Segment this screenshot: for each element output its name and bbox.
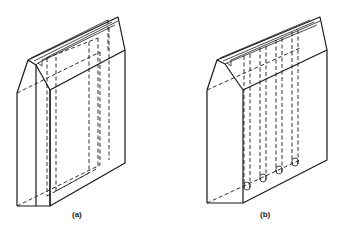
panel-a-drawing: [17, 17, 125, 206]
panel-b-drawing: [207, 17, 327, 203]
channels: [244, 30, 298, 190]
diagram-canvas: [0, 0, 344, 231]
panel-b-label: (b): [260, 210, 270, 219]
panel-a-label: (a): [72, 210, 82, 219]
